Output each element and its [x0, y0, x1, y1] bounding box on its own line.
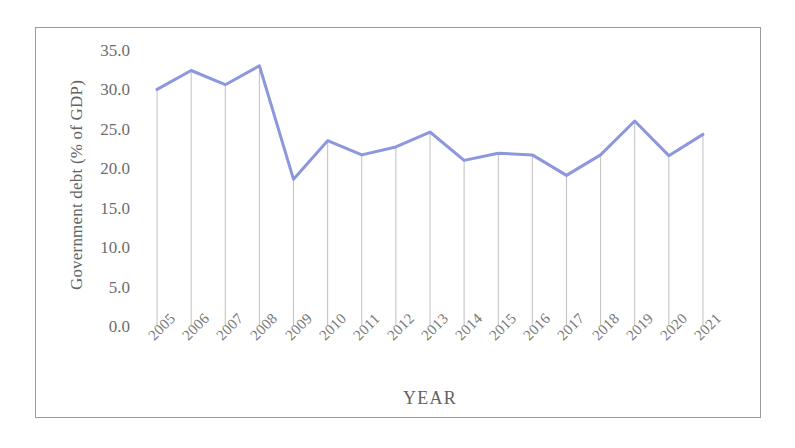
x-axis-title: YEAR: [140, 388, 720, 409]
line-series-svg: [140, 50, 720, 326]
chart-figure: Government debt (% of GDP) 35.030.025.02…: [0, 0, 795, 448]
y-tick-label: 25.0: [84, 121, 130, 138]
y-tick-label: 20.0: [84, 160, 130, 177]
x-axis-tick-labels: 2005200620072008200920102011201220132014…: [140, 326, 720, 396]
y-tick-label: 15.0: [84, 200, 130, 217]
y-tick-label: 35.0: [84, 42, 130, 59]
y-axis-tick-labels: 35.030.025.020.015.010.05.00.0: [84, 0, 130, 448]
y-tick-label: 30.0: [84, 81, 130, 98]
y-tick-label: 0.0: [84, 318, 130, 335]
y-tick-label: 5.0: [84, 279, 130, 296]
y-tick-label: 10.0: [84, 239, 130, 256]
plot-area: [140, 50, 720, 326]
